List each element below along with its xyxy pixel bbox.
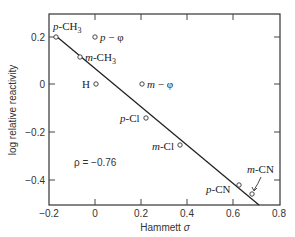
- x-tick-label: −0.2: [39, 208, 59, 219]
- m-cn-arrow-icon: [254, 177, 261, 190]
- point-p-phenyl: [93, 35, 97, 39]
- x-tick-label: 0.4: [180, 208, 194, 219]
- point-m-cl: [178, 143, 182, 147]
- y-tick-labels: 0.2 0 −0.2 −0.4: [25, 32, 45, 186]
- label-p-ch3: p-CH3: [52, 20, 81, 35]
- y-tick-label: −0.2: [25, 127, 45, 138]
- point-p-cn: [237, 183, 241, 187]
- label-m-cl: m-Cl: [152, 140, 174, 152]
- point-m-ch3: [78, 55, 82, 59]
- point-h: [94, 82, 98, 86]
- rho-annotation: ρ = −0.76: [74, 157, 117, 168]
- point-labels: p-CH3 p − φ m-CH3 H m − φ p-Cl m-Cl p-CN…: [52, 20, 274, 195]
- label-p-cn: p-CN: [205, 183, 231, 195]
- point-m-phenyl: [140, 82, 144, 86]
- label-h: H: [82, 78, 90, 90]
- x-tick-labels: −0.2 0 0.2 0.4 0.6 0.8: [39, 208, 286, 219]
- plot-frame: [49, 14, 280, 205]
- point-p-ch3: [54, 35, 58, 39]
- label-m-cn: m-CN: [247, 163, 274, 175]
- label-p-phenyl: p − φ: [99, 31, 124, 43]
- x-tick-label: 0.6: [226, 208, 240, 219]
- x-axis-title: Hammett σ: [140, 222, 190, 233]
- x-tick-label: 0: [92, 208, 98, 219]
- y-axis-title: log relative reactivity: [7, 65, 18, 156]
- x-tick-label: 0.8: [272, 208, 286, 219]
- point-p-cl: [144, 116, 148, 120]
- y-tick-label: 0: [39, 79, 45, 90]
- point-m-cn: [250, 192, 254, 196]
- label-m-phenyl: m − φ: [147, 78, 173, 90]
- y-tick-label: 0.2: [31, 32, 45, 43]
- y-tick-label: −0.4: [25, 175, 45, 186]
- hammett-plot: −0.2 0 0.2 0.4 0.6 0.8 0.2 0 −0.2 −0.4 H…: [0, 0, 295, 237]
- x-tick-label: 0.2: [134, 208, 148, 219]
- label-p-cl: p-Cl: [119, 112, 140, 124]
